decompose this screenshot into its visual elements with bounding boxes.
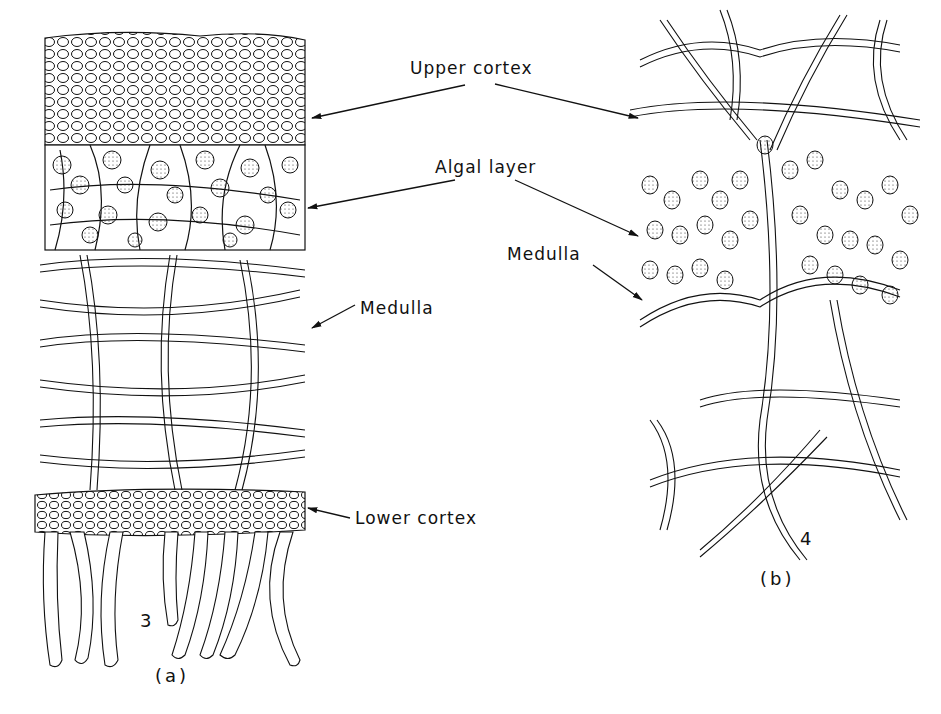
label-arrows (308, 84, 642, 518)
label-algal-layer: Algal layer (435, 157, 536, 177)
lower-cortex-a (35, 489, 305, 535)
label-upper-cortex: Upper cortex (410, 58, 533, 78)
algal-cells-b (642, 136, 918, 304)
diagram-drawing (0, 0, 941, 714)
label-lower-cortex: Lower cortex (355, 508, 477, 528)
figure-a-number: 3 (140, 610, 154, 631)
rhizines-a (43, 532, 300, 667)
figure-b-number: 4 (800, 528, 814, 549)
medulla-a (40, 255, 305, 490)
lichen-diagram: Upper cortex Algal layer Medulla Medulla… (0, 0, 941, 714)
arrow-algal-layer-a (308, 180, 455, 208)
figure-a-drawing (35, 32, 305, 666)
arrow-upper-cortex-b (495, 84, 638, 118)
upper-cortex-a (45, 32, 305, 145)
arrow-medulla-b (593, 265, 642, 300)
figure-b-caption: (b) (760, 568, 794, 589)
figure-b-drawing (630, 10, 920, 560)
arrow-algal-layer-b (515, 180, 638, 236)
arrow-lower-cortex-a (308, 508, 350, 518)
label-medulla-a: Medulla (360, 298, 434, 318)
arrow-upper-cortex-a (312, 85, 465, 118)
figure-a-caption: (a) (155, 665, 189, 686)
arrow-medulla-a (312, 305, 355, 328)
label-medulla-b: Medulla (507, 244, 581, 264)
